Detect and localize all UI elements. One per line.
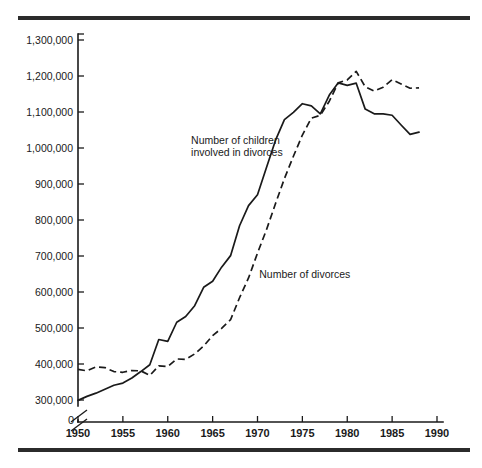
y-axis-origin-label: 0 (68, 414, 74, 426)
x-axis-tick-label: 1960 (156, 427, 180, 439)
chart-plot-area: 300,000400,000500,000600,000700,000800,0… (0, 22, 482, 442)
x-axis-tick-label: 1970 (245, 427, 269, 439)
top-rule (18, 16, 470, 20)
divorces-series-label: Number of divorces (259, 268, 350, 280)
y-axis-tick-label: 600,000 (35, 286, 73, 298)
series-line-divorces (78, 71, 419, 375)
line-chart: 300,000400,000500,000600,000700,000800,0… (0, 22, 482, 442)
x-axis-tick-label: 1975 (290, 427, 314, 439)
x-axis-tick-label: 1950 (66, 427, 90, 439)
figure-container: 300,000400,000500,000600,000700,000800,0… (0, 0, 482, 468)
y-axis-tick-label: 500,000 (35, 322, 73, 334)
y-axis-tick-label: 1,300,000 (26, 34, 73, 46)
y-axis-tick-label: 900,000 (35, 178, 73, 190)
series-line-children (78, 83, 419, 401)
y-axis-tick-label: 700,000 (35, 250, 73, 262)
x-axis-tick-label: 1980 (335, 427, 359, 439)
x-axis-tick-label: 1990 (425, 427, 449, 439)
y-axis-tick-label: 1,200,000 (26, 70, 73, 82)
y-axis-tick-label: 300,000 (35, 394, 73, 406)
x-axis-tick-label: 1985 (380, 427, 404, 439)
y-axis-tick-label: 400,000 (35, 358, 73, 370)
y-axis-tick-label: 1,000,000 (26, 142, 73, 154)
y-axis-tick-label: 800,000 (35, 214, 73, 226)
children-series-label-line2: involved in divorces (191, 146, 283, 158)
x-axis-tick-label: 1965 (200, 427, 224, 439)
bottom-rule (18, 448, 470, 452)
y-axis-tick-label: 1,100,000 (26, 106, 73, 118)
x-axis-tick-label: 1955 (111, 427, 135, 439)
children-series-label: Number of children (191, 134, 280, 146)
